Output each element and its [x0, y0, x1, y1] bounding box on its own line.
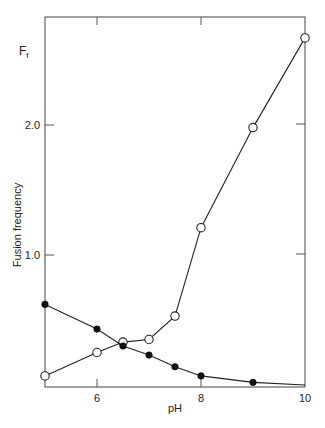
open-circle-marker [145, 335, 153, 343]
filled-circle-marker [198, 373, 205, 380]
axis-ticks [45, 17, 305, 387]
filled-circle-marker [94, 326, 101, 333]
x-tick-label: 10 [299, 392, 311, 404]
y-axis-symbol: Ff [19, 44, 29, 60]
y-symbol-main: F [19, 44, 26, 58]
filled-circle-marker [146, 352, 153, 359]
open-circle-marker [93, 348, 101, 356]
filled-circle-marker [250, 379, 257, 386]
filled-circle-marker [172, 364, 179, 371]
y-axis-title: Fusion frequency [11, 182, 23, 267]
plot-border [45, 17, 305, 387]
series-open-circles [41, 34, 309, 380]
y-symbol-sub: f [26, 51, 29, 60]
chart: 6810 1.02.0 pH Fusion frequency Ff [0, 0, 325, 428]
open-circle-marker [197, 224, 205, 232]
y-tick-labels: 1.02.0 [25, 119, 40, 261]
y-tick-label: 1.0 [25, 249, 40, 261]
filled-circle-marker [120, 343, 127, 350]
open-circle-marker [301, 34, 309, 42]
open-circle-marker [41, 372, 49, 380]
open-circle-marker [249, 123, 257, 131]
y-tick-label: 2.0 [25, 119, 40, 131]
x-tick-label: 6 [94, 392, 100, 404]
plot-frame [45, 17, 305, 387]
series-line [45, 38, 305, 376]
x-axis-title: pH [168, 402, 182, 414]
data-series [41, 34, 309, 386]
filled-circle-marker [42, 301, 49, 308]
x-tick-labels: 6810 [94, 392, 311, 404]
x-tick-label: 8 [198, 392, 204, 404]
open-circle-marker [171, 312, 179, 320]
